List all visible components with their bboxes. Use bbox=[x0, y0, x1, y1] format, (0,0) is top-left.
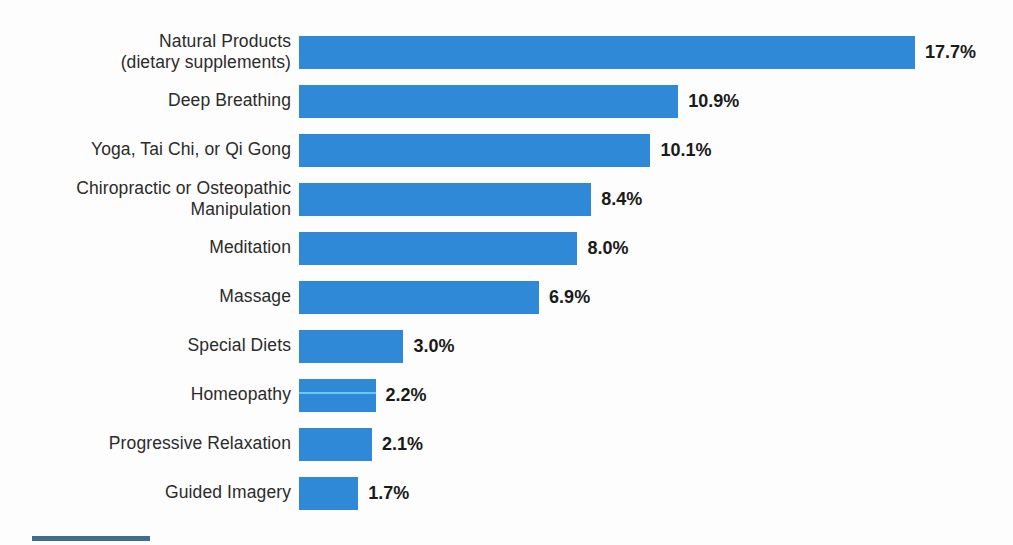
value-label: 2.2% bbox=[386, 379, 427, 412]
category-label: Natural Products (dietary supplements) bbox=[0, 31, 291, 73]
bar-chart: Natural Products (dietary supplements)17… bbox=[0, 0, 1013, 545]
scan-artifact-line bbox=[299, 392, 376, 394]
bar bbox=[299, 477, 358, 510]
bar-track bbox=[299, 281, 1013, 314]
chart-row: Deep Breathing10.9% bbox=[0, 79, 1013, 128]
bar bbox=[299, 281, 539, 314]
chart-row: Meditation8.0% bbox=[0, 226, 1013, 275]
bar-track bbox=[299, 232, 1013, 265]
chart-rows: Natural Products (dietary supplements)17… bbox=[0, 30, 1013, 520]
value-label: 8.4% bbox=[601, 183, 642, 216]
category-label: Progressive Relaxation bbox=[0, 433, 291, 454]
bar-track bbox=[299, 36, 1013, 69]
category-label: Meditation bbox=[0, 237, 291, 258]
bar bbox=[299, 36, 915, 69]
chart-row: Yoga, Tai Chi, or Qi Gong10.1% bbox=[0, 128, 1013, 177]
value-label: 17.7% bbox=[925, 36, 976, 69]
value-label: 6.9% bbox=[549, 281, 590, 314]
category-label: Special Diets bbox=[0, 335, 291, 356]
value-label: 10.9% bbox=[688, 85, 739, 118]
chart-row: Natural Products (dietary supplements)17… bbox=[0, 30, 1013, 79]
value-label: 2.1% bbox=[382, 428, 423, 461]
bar bbox=[299, 134, 650, 167]
bar bbox=[299, 85, 678, 118]
value-label: 8.0% bbox=[587, 232, 628, 265]
bar bbox=[299, 428, 372, 461]
chart-row: Progressive Relaxation2.1% bbox=[0, 422, 1013, 471]
chart-row: Massage6.9% bbox=[0, 275, 1013, 324]
category-label: Homeopathy bbox=[0, 384, 291, 405]
category-label: Yoga, Tai Chi, or Qi Gong bbox=[0, 139, 291, 160]
bar-track bbox=[299, 330, 1013, 363]
category-label: Chiropractic or Osteopathic Manipulation bbox=[0, 178, 291, 220]
bar-track bbox=[299, 183, 1013, 216]
chart-row: Homeopathy2.2% bbox=[0, 373, 1013, 422]
value-label: 1.7% bbox=[368, 477, 409, 510]
category-label: Guided Imagery bbox=[0, 482, 291, 503]
footer-rule bbox=[32, 536, 150, 541]
value-label: 3.0% bbox=[413, 330, 454, 363]
chart-row: Chiropractic or Osteopathic Manipulation… bbox=[0, 177, 1013, 226]
bar bbox=[299, 379, 376, 412]
chart-row: Special Diets3.0% bbox=[0, 324, 1013, 373]
bar-track bbox=[299, 85, 1013, 118]
category-label: Massage bbox=[0, 286, 291, 307]
chart-row: Guided Imagery1.7% bbox=[0, 471, 1013, 520]
bar bbox=[299, 330, 403, 363]
category-label: Deep Breathing bbox=[0, 90, 291, 111]
bar bbox=[299, 232, 577, 265]
bar bbox=[299, 183, 591, 216]
value-label: 10.1% bbox=[660, 134, 711, 167]
bar-track bbox=[299, 134, 1013, 167]
